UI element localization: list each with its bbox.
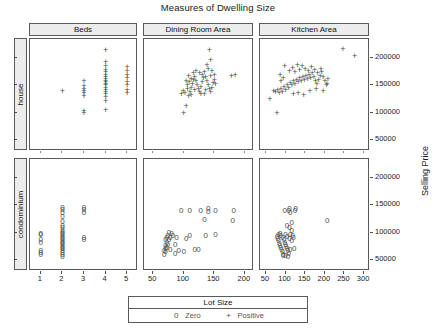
data-point: + — [352, 52, 357, 61]
data-point: + — [325, 80, 330, 89]
chart-title: Measures of Dwelling Size — [0, 2, 436, 13]
panel-condominium-beds: 00000000000000000000000000000000000 — [29, 158, 137, 270]
y-axis-tick-left — [14, 139, 17, 140]
legend-key-zero[interactable]: 0 Zero — [172, 311, 200, 320]
data-point: + — [103, 58, 108, 67]
data-point: + — [207, 46, 212, 55]
legend-label-positive: Positive — [238, 311, 264, 320]
x-axis-tick-label: 150 — [298, 275, 311, 283]
data-point: 0 — [202, 216, 206, 224]
y-axis-tick-label: 100000 — [375, 228, 400, 236]
legend-label-zero: Zero — [185, 311, 200, 320]
x-axis-tick-label: 5 — [124, 275, 128, 283]
x-axis-tick-label: 150 — [207, 275, 220, 283]
data-point: 0 — [163, 248, 167, 256]
x-axis-tick-label: 2 — [59, 275, 63, 283]
legend-key-positive[interactable]: + Positive — [225, 311, 264, 320]
data-point: 0 — [60, 204, 64, 212]
data-point: 0 — [173, 250, 177, 258]
data-point: 0 — [82, 204, 86, 212]
legend-body: 0 Zero + Positive — [129, 309, 307, 321]
panel-house-kitchen-area: ++++++++++++++++++++++++++++++++++++++++… — [259, 38, 369, 150]
x-axis-tick-label: 1 — [38, 275, 42, 283]
data-point: 0 — [232, 207, 236, 215]
data-point: + — [81, 107, 86, 116]
data-point: 0 — [169, 230, 173, 238]
x-axis-tick-label: 100 — [278, 275, 291, 283]
y-axis-tick-label: 150000 — [375, 80, 400, 88]
data-point: + — [184, 77, 189, 86]
data-point: 0 — [39, 230, 43, 238]
data-point: + — [232, 70, 237, 79]
data-point: 0 — [206, 205, 210, 213]
x-axis-tick-label: 200 — [318, 275, 331, 283]
y-axis-tick-right — [370, 139, 373, 140]
x-axis-tick-label: 200 — [238, 275, 251, 283]
column-strip-dining-room-area: Dining Room Area — [143, 23, 253, 36]
y-axis-tick-label: 100000 — [375, 108, 400, 116]
y-axis-tick-left — [14, 177, 17, 178]
x-axis-tick-label: 50 — [148, 275, 156, 283]
x-axis-tick-upper — [213, 151, 214, 153]
data-point: + — [125, 63, 130, 72]
data-point: + — [307, 86, 312, 95]
x-axis-tick-upper — [304, 151, 305, 153]
data-point: + — [295, 89, 300, 98]
y-axis-tick-right — [370, 204, 373, 205]
legend: Lot Size 0 Zero + Positive — [128, 296, 308, 323]
y-axis-tick-right — [370, 232, 373, 233]
panel-house-beds: ++++++++++++++++++++++++++++++++++++ — [29, 38, 137, 150]
data-point: + — [301, 91, 306, 100]
data-point: + — [318, 65, 323, 74]
data-point: + — [191, 75, 196, 84]
x-axis-tick-upper — [126, 151, 127, 153]
y-axis-tick-label: 50000 — [375, 135, 396, 143]
y-axis-tick-left — [14, 259, 17, 260]
y-axis-tick-left — [14, 232, 17, 233]
x-axis-tick-upper — [83, 151, 84, 153]
y-axis-tick-right — [370, 259, 373, 260]
y-axis-tick-label: 200000 — [375, 53, 400, 61]
data-point: 0 — [213, 207, 217, 215]
data-point: 0 — [230, 217, 234, 225]
x-axis-tick-upper — [285, 151, 286, 153]
data-point: + — [81, 77, 86, 86]
data-point: 0 — [325, 217, 329, 225]
x-axis-tick-label: 3 — [81, 275, 85, 283]
plus-symbol-icon: + — [225, 311, 233, 320]
y-axis-tick-left — [14, 57, 17, 58]
data-point: + — [267, 94, 272, 103]
data-point: + — [103, 46, 108, 55]
data-point: 0 — [290, 227, 294, 235]
x-axis-tick-upper — [343, 151, 344, 153]
panel-condominium-kitchen-area: 0000000000000000000000000000000000000000… — [259, 158, 369, 270]
data-point: 0 — [179, 207, 183, 215]
column-strip-beds: Beds — [29, 23, 137, 36]
data-point: + — [103, 106, 108, 115]
row-strip-condominium-label: condominium — [16, 190, 25, 238]
x-axis-tick-upper — [324, 151, 325, 153]
data-point: 0 — [188, 207, 192, 215]
panel-house-dining-room-area: ++++++++++++++++++++++++++++++++++++++++… — [143, 38, 253, 150]
row-strip-house: house — [14, 38, 27, 150]
data-point: 0 — [188, 232, 192, 240]
data-point: 0 — [213, 231, 217, 239]
data-point: 0 — [196, 246, 200, 254]
data-point: + — [340, 45, 345, 54]
data-point: + — [188, 91, 193, 100]
data-point: 0 — [168, 246, 172, 254]
y-axis-tick-right — [370, 177, 373, 178]
panel-condominium-dining-room-area: 0000000000000000000000000000000000000 — [143, 158, 253, 270]
data-point: 0 — [292, 245, 296, 253]
data-point: + — [197, 69, 202, 78]
x-axis-tick-upper — [61, 151, 62, 153]
x-axis-tick-label: 300 — [357, 275, 370, 283]
zero-symbol-icon: 0 — [172, 311, 180, 320]
data-point: + — [212, 70, 217, 79]
x-axis-tick-upper — [40, 151, 41, 153]
x-axis-tick-upper — [244, 151, 245, 153]
column-strip-kitchen-area: Kitchen Area — [259, 23, 369, 36]
data-point: + — [184, 102, 189, 111]
x-axis-tick-label: 250 — [337, 275, 350, 283]
x-axis-tick-upper — [265, 151, 266, 153]
